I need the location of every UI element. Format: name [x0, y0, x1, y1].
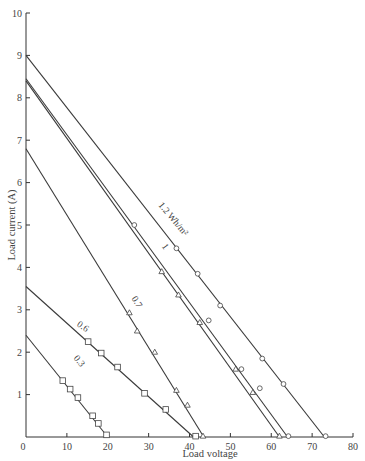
- x-tick-label: 30: [144, 441, 154, 452]
- triangle-marker: [152, 349, 158, 354]
- circle-marker: [132, 223, 137, 228]
- triangle-marker: [134, 328, 140, 333]
- y-tick-label: 10: [12, 8, 22, 19]
- square-marker: [60, 378, 66, 384]
- x-tick-label: 10: [62, 441, 72, 452]
- circle-marker: [206, 318, 211, 323]
- square-marker: [90, 413, 96, 419]
- y-tick-label: 6: [17, 177, 22, 188]
- y-tick-label: 7: [17, 135, 22, 146]
- circle-marker: [257, 386, 262, 391]
- x-tick-label: 20: [103, 441, 113, 452]
- series-label: 1: [160, 242, 171, 252]
- y-tick-label: 2: [17, 347, 22, 358]
- circle-marker: [260, 356, 265, 361]
- series-markers: [60, 223, 328, 439]
- y-tick-label: 5: [17, 220, 22, 231]
- square-marker: [163, 407, 169, 413]
- x-tick-label: 0: [21, 441, 26, 452]
- series-label: 1.2 Wh/m²: [157, 200, 191, 238]
- circle-marker: [195, 271, 200, 276]
- x-tick-label: 80: [348, 441, 358, 452]
- square-marker: [85, 339, 91, 345]
- y-axis-label: Load current (A): [6, 189, 18, 261]
- circle-marker: [286, 434, 291, 439]
- square-marker: [67, 386, 73, 392]
- series-label: 0.3: [72, 353, 87, 369]
- square-marker: [75, 395, 81, 401]
- square-marker: [96, 421, 102, 427]
- chart: 0102030405060708012345678910 0.30.60.711…: [0, 0, 365, 461]
- square-marker: [193, 433, 199, 439]
- series-label: 0.6: [75, 319, 91, 334]
- circle-marker: [218, 303, 223, 308]
- square-marker: [98, 350, 104, 356]
- circle-marker: [239, 367, 244, 372]
- series-line: [26, 286, 194, 437]
- square-marker: [104, 432, 110, 438]
- y-tick-label: 8: [17, 92, 22, 103]
- triangle-marker: [185, 402, 191, 407]
- y-tick-label: 1: [17, 389, 22, 400]
- x-tick-label: 70: [307, 441, 317, 452]
- circle-marker: [281, 382, 286, 387]
- series-label: 0.7: [129, 294, 144, 310]
- y-tick-label: 3: [17, 304, 22, 315]
- x-tick-label: 60: [266, 441, 276, 452]
- circle-marker: [323, 434, 328, 439]
- square-marker: [142, 391, 148, 397]
- x-axis-label: Load voltage: [182, 448, 237, 459]
- triangle-marker: [200, 433, 206, 438]
- square-marker: [115, 364, 121, 370]
- y-tick-label: 9: [17, 50, 22, 61]
- circle-marker: [174, 246, 179, 251]
- y-tick-label: 4: [17, 262, 22, 273]
